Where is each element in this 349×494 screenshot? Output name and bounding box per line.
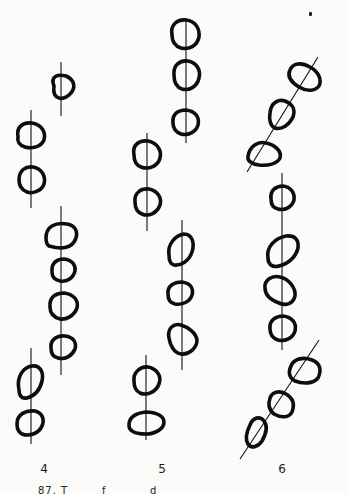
column-label-5: 5 [152,462,172,476]
caption-fragment: d [150,485,157,494]
figure-plate: 4 5 6 87. T f d [0,0,349,494]
caption-fragment: 87. T [38,485,68,494]
figure-caption: 87. T f d [0,485,349,494]
caption-fragment: f [102,485,107,494]
column-label-4: 4 [34,462,54,476]
column-4-group [17,62,77,444]
column-label-6: 6 [272,462,292,476]
column-5-group [129,18,200,440]
figure-drawing [0,0,349,494]
column-6-group [240,57,320,459]
